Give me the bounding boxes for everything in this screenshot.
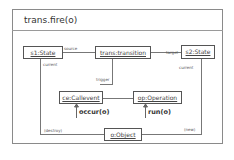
object-trans-transition[interactable]: trans:transition: [95, 46, 151, 59]
run-arrowhead-icon: [144, 104, 148, 107]
label-current-right: current: [179, 65, 193, 70]
object-o-object[interactable]: o:Object: [104, 128, 142, 141]
label-new: (new): [184, 127, 195, 132]
message-run: run(o): [148, 108, 171, 116]
label-trigger: trigger: [96, 77, 110, 82]
object-s1-state[interactable]: s1:State: [23, 46, 63, 59]
label-current-left: current: [43, 62, 57, 67]
label-source: source: [64, 46, 77, 51]
message-occur: occur(o): [79, 108, 109, 116]
object-ce-callevent[interactable]: ce:Callevent: [59, 91, 103, 104]
label-target: target: [166, 50, 178, 55]
label-destroy: (destroy): [44, 128, 62, 133]
occur-arrowhead-icon: [75, 104, 79, 107]
object-s2-state[interactable]: s2:State: [181, 45, 215, 59]
object-op-operation[interactable]: op:Operation: [133, 91, 182, 104]
